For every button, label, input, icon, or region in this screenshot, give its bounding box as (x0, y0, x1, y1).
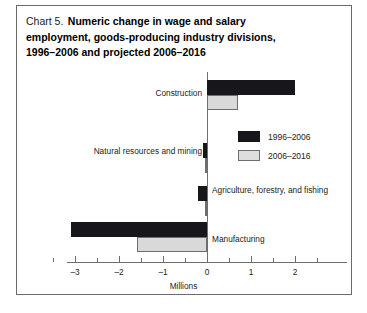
x-axis-title: Millions (0, 281, 367, 291)
legend-item-projected: 2006–2016 (238, 148, 311, 163)
legend-label-past: 1996–2006 (268, 132, 311, 142)
chart-title: Chart 5. Numeric change in wage and sala… (26, 13, 316, 60)
chart-title-prefix: Chart 5. (26, 15, 63, 27)
legend-swatch-projected-icon (238, 150, 260, 161)
chart-title-line-3: 1996–2006 and projected 2006–2016 (26, 46, 206, 58)
chart-legend: 1996–2006 2006–2016 (238, 129, 311, 167)
x-axis-line (67, 262, 347, 263)
chart-title-line-1: Numeric change in wage and salary (68, 15, 246, 27)
legend-swatch-past-icon (238, 131, 260, 142)
chart-title-line-2: employment, goods-producing industry div… (26, 31, 276, 43)
legend-item-past: 1996–2006 (238, 129, 311, 144)
legend-label-projected: 2006–2016 (268, 151, 311, 161)
